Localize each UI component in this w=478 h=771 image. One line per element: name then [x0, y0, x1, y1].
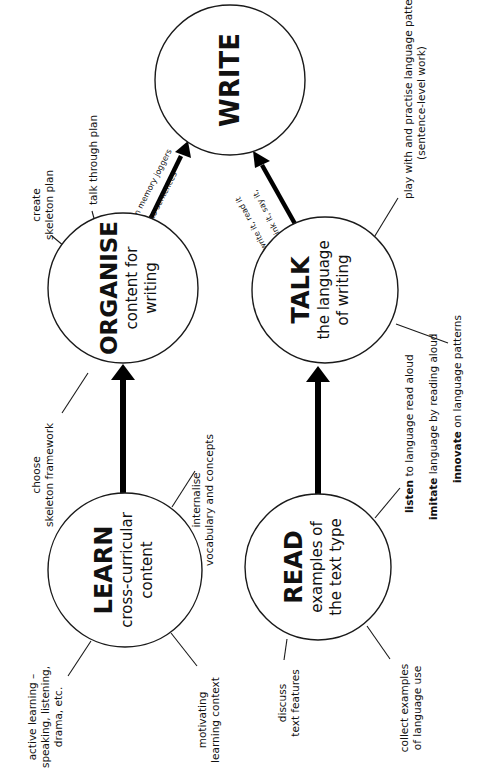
svg-text:text features: text features — [289, 669, 301, 736]
note-listen: listen to language read aloud — [403, 354, 415, 513]
note-choose-framework: choose skeleton framework — [30, 422, 55, 527]
svg-text:collect examples: collect examples — [398, 664, 410, 752]
svg-text:speaking, listening,: speaking, listening, — [39, 666, 51, 768]
note-create-skeleton: create skeleton plan — [30, 170, 55, 240]
svg-text:choose: choose — [30, 456, 42, 493]
note-collect: collect examples of language use — [398, 664, 423, 752]
node-organise: ORGANISE content for writing — [48, 213, 198, 363]
writing-process-diagram: turn memory joggers into sentences think… — [0, 0, 478, 771]
svg-text:learning context: learning context — [209, 677, 221, 763]
svg-text:imitate language by reading al: imitate language by reading aloud — [427, 334, 439, 520]
node-read-line2: the text type — [327, 518, 345, 615]
node-talk-line2: of writing — [334, 255, 352, 326]
svg-text:listen to language read aloud: listen to language read aloud — [403, 354, 415, 513]
svg-text:create: create — [30, 188, 42, 221]
svg-text:of language use: of language use — [411, 666, 423, 750]
svg-text:skeleton framework: skeleton framework — [43, 422, 55, 527]
note-imitate: imitate language by reading aloud — [427, 334, 439, 520]
node-organise-line2: writing — [142, 262, 160, 314]
svg-text:skeleton plan: skeleton plan — [43, 170, 55, 240]
note-innovate: innovate on language patterns — [451, 315, 463, 483]
svg-text:internalise: internalise — [190, 472, 202, 527]
svg-text:drama, etc.: drama, etc. — [52, 687, 64, 747]
arrow-read-to-talk — [306, 366, 330, 494]
node-learn-line1: cross-curricular — [118, 511, 136, 627]
note-active-learning: active learning – speaking, listening, d… — [26, 666, 64, 768]
svg-text:innovate on language patterns: innovate on language patterns — [451, 315, 463, 483]
note-discuss: discuss text features — [276, 669, 301, 736]
node-learn: LEARN cross-curricular content — [48, 493, 202, 647]
node-read-title: READ — [280, 530, 308, 603]
node-talk-line1: the language — [315, 240, 333, 339]
svg-text:(sentence-level work): (sentence-level work) — [415, 46, 427, 160]
node-organise-title: ORGANISE — [96, 221, 122, 355]
node-organise-line1: content for — [123, 246, 141, 330]
node-write-title: WRITE — [215, 33, 245, 127]
svg-text:motivating: motivating — [196, 692, 208, 749]
svg-text:talk through plan: talk through plan — [87, 115, 99, 205]
node-learn-line2: content — [138, 541, 156, 599]
svg-text:discuss: discuss — [276, 684, 288, 722]
node-read: READ examples of the text type — [245, 494, 391, 640]
node-write: WRITE — [155, 5, 305, 155]
node-read-line1: examples of — [308, 520, 326, 612]
node-learn-title: LEARN — [90, 526, 118, 615]
node-talk: TALK the language of writing — [252, 217, 398, 363]
note-talk-through-plan: talk through plan — [87, 115, 99, 205]
svg-text:vocabulary and concepts: vocabulary and concepts — [203, 434, 215, 566]
svg-text:play with and practise languag: play with and practise language patterns — [402, 0, 414, 199]
note-play-with-patterns: play with and practise language patterns… — [402, 0, 427, 199]
note-motivating: motivating learning context — [196, 677, 221, 763]
arrow-talk-to-write — [253, 151, 299, 231]
arrow-learn-to-organise — [111, 364, 135, 494]
node-talk-title: TALK — [287, 255, 315, 323]
svg-text:active learning –: active learning – — [26, 674, 38, 761]
